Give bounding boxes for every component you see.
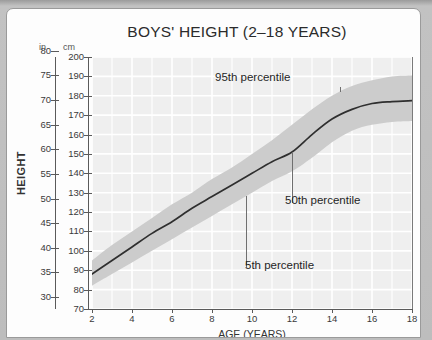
tick-mark-centimeters xyxy=(84,309,92,310)
annotation-50th-percentile: 50th percentile xyxy=(285,194,360,206)
tick-mark-centimeters xyxy=(84,251,92,252)
tick-label-centimeters: 90 xyxy=(60,264,84,275)
tick-label-centimeters: 110 xyxy=(60,225,84,236)
tick-label-age: 16 xyxy=(360,313,384,324)
tick-label-inches: 80 xyxy=(29,45,51,56)
tick-label-centimeters: 180 xyxy=(60,90,84,101)
tick-label-inches: 30 xyxy=(29,291,51,302)
tick-mark-age xyxy=(292,309,293,313)
tick-mark-inches xyxy=(51,100,59,101)
tick-mark-centimeters xyxy=(84,96,92,97)
tick-label-inches: 45 xyxy=(29,217,51,228)
chart-title: BOYS' HEIGHT (2–18 YEARS) xyxy=(67,23,407,41)
leader-line-95th xyxy=(340,87,341,92)
tick-mark-inches xyxy=(51,174,59,175)
tick-mark-centimeters xyxy=(84,290,92,291)
plot-area xyxy=(92,57,412,309)
tick-mark-age xyxy=(332,309,333,313)
tick-mark-centimeters xyxy=(84,173,92,174)
inches-axis-spine xyxy=(55,57,56,309)
leader-line-5th xyxy=(246,196,247,267)
tick-mark-centimeters xyxy=(84,57,92,58)
tick-label-age: 6 xyxy=(160,313,184,324)
tick-mark-inches xyxy=(51,248,59,249)
tick-mark-age xyxy=(92,309,93,313)
x-axis-title: AGE (YEARS) xyxy=(92,328,412,338)
tick-label-age: 14 xyxy=(320,313,344,324)
tick-label-centimeters: 190 xyxy=(60,70,84,81)
tick-mark-centimeters xyxy=(84,270,92,271)
tick-mark-inches xyxy=(51,199,59,200)
tick-mark-inches xyxy=(51,149,59,150)
tick-mark-centimeters xyxy=(84,154,92,155)
tick-mark-age xyxy=(252,309,253,313)
growth-chart-svg xyxy=(92,57,412,309)
tick-label-centimeters: 120 xyxy=(60,206,84,217)
tick-label-age: 18 xyxy=(400,313,421,324)
tick-mark-inches xyxy=(51,223,59,224)
tick-label-inches: 60 xyxy=(29,143,51,154)
tick-mark-centimeters xyxy=(84,212,92,213)
tick-mark-inches xyxy=(51,297,59,298)
tick-label-inches: 35 xyxy=(29,266,51,277)
annotation-95th-percentile: 95th percentile xyxy=(215,71,290,83)
tick-label-age: 10 xyxy=(240,313,264,324)
chart-card: BOYS' HEIGHT (2–18 YEARS) in cm HEIGHT 8… xyxy=(6,8,421,338)
tick-mark-inches xyxy=(51,125,59,126)
tick-label-centimeters: 150 xyxy=(60,148,84,159)
tick-mark-centimeters xyxy=(84,135,92,136)
tick-label-age: 2 xyxy=(80,313,104,324)
tick-label-inches: 65 xyxy=(29,119,51,130)
tick-mark-centimeters xyxy=(84,76,92,77)
y-axis-title: HEIGHT xyxy=(15,138,27,208)
tick-mark-age xyxy=(172,309,173,313)
tick-mark-age xyxy=(212,309,213,313)
tick-mark-centimeters xyxy=(84,115,92,116)
tick-label-inches: 55 xyxy=(29,168,51,179)
tick-label-age: 12 xyxy=(280,313,304,324)
tick-label-centimeters: 160 xyxy=(60,129,84,140)
tick-label-inches: 50 xyxy=(29,193,51,204)
tick-label-centimeters: 140 xyxy=(60,167,84,178)
annotation-5th-percentile: 5th percentile xyxy=(245,259,314,271)
tick-mark-inches xyxy=(51,51,59,52)
tick-mark-centimeters xyxy=(84,231,92,232)
tick-label-centimeters: 170 xyxy=(60,109,84,120)
tick-mark-inches xyxy=(51,272,59,273)
tick-label-centimeters: 200 xyxy=(60,51,84,62)
tick-mark-age xyxy=(132,309,133,313)
tick-label-centimeters: 80 xyxy=(60,284,84,295)
tick-label-centimeters: 130 xyxy=(60,187,84,198)
tick-label-centimeters: 100 xyxy=(60,245,84,256)
tick-mark-age xyxy=(412,309,413,313)
tick-mark-centimeters xyxy=(84,193,92,194)
tick-mark-inches xyxy=(51,75,59,76)
tick-label-age: 4 xyxy=(120,313,144,324)
tick-label-inches: 40 xyxy=(29,242,51,253)
tick-mark-age xyxy=(372,309,373,313)
tick-label-inches: 75 xyxy=(29,69,51,80)
tick-label-inches: 70 xyxy=(29,94,51,105)
tick-label-age: 8 xyxy=(200,313,224,324)
plot-right-spine xyxy=(412,57,413,309)
